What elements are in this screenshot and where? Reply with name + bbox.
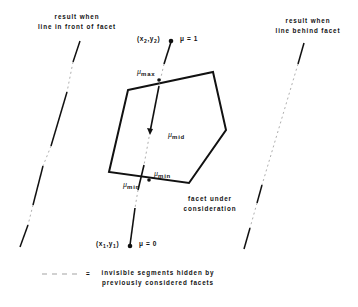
facet-polygon [109, 72, 226, 183]
right-caption-line2: line behind facet [260, 26, 356, 36]
right-caption-line1: result when [260, 16, 356, 26]
facet-caption: facet under consideration [160, 194, 260, 213]
endpoint-bottom-coord: (x1,y1) [96, 240, 119, 249]
mu-min-label-inner: μmin [154, 169, 171, 179]
right-caption: result when line behind facet [260, 16, 356, 35]
left-caption: result when line in front of facet [22, 12, 132, 31]
legend-text: invisible segments hidden by previously … [88, 268, 228, 287]
facet-caption-line2: consideration [160, 204, 260, 214]
mu-mid-label: μmid [168, 130, 185, 140]
legend-line2: previously considered facets [88, 278, 228, 288]
endpoint-bottom-param: μ = 0 [139, 240, 157, 247]
arrow-head-icon [147, 128, 153, 135]
endpoint-top-dot [169, 39, 174, 44]
facet-caption-line1: facet under [160, 194, 260, 204]
mu-min-dot [147, 178, 151, 182]
legend-line1: invisible segments hidden by [88, 268, 228, 278]
endpoint-top-coord: (x2,y2) [137, 35, 160, 44]
left-result-line [20, 41, 80, 247]
left-caption-line1: result when [22, 12, 132, 22]
mu-min-label-outer: μmin [123, 180, 140, 190]
mu-max-dot [157, 78, 161, 82]
left-caption-line2: line in front of facet [22, 22, 132, 32]
endpoint-top-param: μ = 1 [180, 35, 198, 42]
endpoint-bottom-dot [128, 244, 133, 249]
diagram-canvas [0, 0, 358, 307]
right-result-line [244, 43, 304, 249]
mu-max-label: μmax [137, 67, 155, 77]
